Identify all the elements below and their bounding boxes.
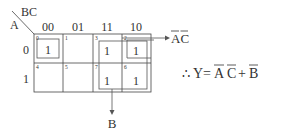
group-label-ac: AC bbox=[171, 31, 189, 46]
group-label-b: B bbox=[108, 116, 117, 131]
term-b: B bbox=[249, 66, 258, 81]
row-var-label: A bbox=[10, 18, 19, 32]
karnaugh-map-diagram: BC A 00 01 11 10 0 1 0 1 3 2 4 5 7 6 1 1… bbox=[0, 0, 283, 135]
cell-value: 1 bbox=[133, 44, 139, 58]
plus-sign: + bbox=[238, 66, 246, 81]
term-a: A bbox=[214, 66, 225, 81]
group-loop-cell2 bbox=[127, 40, 154, 58]
col-header-10: 10 bbox=[130, 20, 142, 34]
arrow-head-ac bbox=[165, 36, 170, 41]
cell-index: 1 bbox=[65, 35, 68, 41]
cell-value: 1 bbox=[45, 43, 51, 57]
cell-index: 4 bbox=[36, 64, 39, 70]
col-header-01: 01 bbox=[72, 20, 84, 34]
cell-index: 0 bbox=[36, 35, 39, 41]
equation-lhs: Y bbox=[193, 66, 203, 81]
row-header-0: 0 bbox=[23, 43, 29, 57]
col-var-label: BC bbox=[21, 5, 37, 19]
cell-index: 5 bbox=[65, 64, 68, 70]
cell-index: 3 bbox=[95, 35, 98, 41]
equals-sign: = bbox=[203, 66, 211, 81]
cell-index: 6 bbox=[124, 64, 127, 70]
term-c: C bbox=[227, 66, 236, 81]
row-header-1: 1 bbox=[23, 72, 29, 86]
col-header-11: 11 bbox=[101, 20, 113, 34]
cell-value: 1 bbox=[104, 44, 110, 58]
cell-index: 7 bbox=[95, 64, 98, 70]
arrow-head-b bbox=[110, 110, 115, 115]
therefore-symbol: ∴ bbox=[182, 66, 190, 81]
col-header-00: 00 bbox=[42, 20, 54, 34]
cell-value: 1 bbox=[133, 74, 139, 88]
result-equation: ∴ Y = A C + B bbox=[182, 65, 258, 81]
cell-value: 1 bbox=[104, 74, 110, 88]
